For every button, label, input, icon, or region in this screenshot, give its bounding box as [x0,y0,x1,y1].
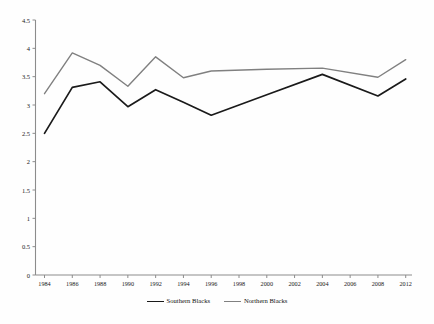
x-tick-label: 1998 [225,280,253,287]
x-tick-label: 1996 [197,280,225,287]
x-tick-label: 1992 [142,280,170,287]
legend-label: Southern Blacks [167,297,210,305]
y-tick-label: 4.5 [2,17,30,24]
legend-item[interactable]: Southern Blacks [147,297,210,305]
y-tick-label: 4 [2,45,30,52]
x-tick-label: 1990 [114,280,142,287]
chart-legend: Southern BlacksNorthern Blacks [0,297,434,305]
series-line-northern-blacks [45,53,406,94]
x-tick-label: 2000 [253,280,281,287]
y-tick-label: 3.5 [2,73,30,80]
y-tick-label: 1.5 [2,187,30,194]
y-tick-label: 2 [2,158,30,165]
line-chart: 00.511.522.533.544.5 1984198619881990199… [0,0,434,324]
x-tick-label: 1988 [86,280,114,287]
x-tick-label: 2006 [336,280,364,287]
x-tick-label: 2002 [281,280,309,287]
x-tick-label: 2012 [392,280,420,287]
data-series-group [45,53,406,133]
x-tick-label: 1984 [31,280,59,287]
x-tick-label: 1994 [169,280,197,287]
x-tick-label: 2008 [364,280,392,287]
legend-line-swatch [147,301,164,302]
legend-line-swatch [224,301,241,302]
tick-marks [33,20,406,278]
x-tick-label: 2004 [308,280,336,287]
y-tick-label: 3 [2,102,30,109]
y-tick-label: 1 [2,215,30,222]
plot-area [0,0,434,324]
y-tick-label: 0 [2,272,30,279]
axis-group [36,20,413,275]
legend-item[interactable]: Northern Blacks [224,297,287,305]
series-line-southern-blacks [45,74,406,133]
y-tick-label: 2.5 [2,130,30,137]
y-tick-label: 0.5 [2,243,30,250]
x-tick-label: 1986 [58,280,86,287]
legend-label: Northern Blacks [244,297,287,305]
